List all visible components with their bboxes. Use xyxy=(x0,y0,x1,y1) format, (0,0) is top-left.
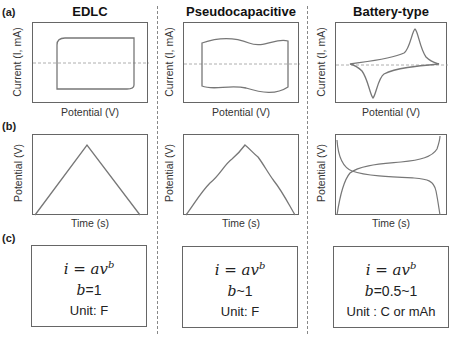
b-value-text: =1 xyxy=(86,282,102,298)
panel-label-c: (c) xyxy=(2,232,15,244)
b-variable: b xyxy=(77,282,86,298)
gcd-curve-battery-type xyxy=(336,135,448,216)
cv-curve-battery-type xyxy=(336,23,448,104)
cv-xlabel-pseudocapacitive: Potential (V) xyxy=(183,106,299,118)
power-law-equation-battery-type: i = avb xyxy=(334,260,448,279)
power-law-equation-pseudocapacitive: i = avb xyxy=(183,260,297,279)
unit-edlc: Unit: F xyxy=(32,303,146,318)
equation-exponent: b xyxy=(108,259,114,270)
equation-text: i = av xyxy=(366,261,410,279)
gcd-ylabel-edlc: Potential (V) xyxy=(12,138,24,208)
cv-xlabel-edlc: Potential (V) xyxy=(32,106,148,118)
cv-ylabel-edlc: Current (I, mA) xyxy=(11,22,23,102)
column-divider-1 xyxy=(157,6,158,334)
b-value-text: =0.5~1 xyxy=(374,283,418,299)
equation-box-edlc: i = avb b=1 Unit: F xyxy=(31,245,147,327)
cv-plot-pseudocapacitive xyxy=(183,22,299,103)
gcd-ylabel-battery-type: Potential (V) xyxy=(315,138,327,208)
equation-exponent: b xyxy=(259,260,265,271)
cv-plot-edlc xyxy=(32,22,148,103)
gcd-plot-battery-type xyxy=(335,134,447,215)
gcd-plot-pseudocapacitive xyxy=(183,134,299,215)
equation-exponent: b xyxy=(410,260,416,271)
cv-curve-pseudocapacitive xyxy=(184,23,300,104)
gcd-xlabel-edlc: Time (s) xyxy=(32,217,148,229)
b-value-pseudocapacitive: b~1 xyxy=(183,283,297,299)
gcd-ylabel-pseudocapacitive: Potential (V) xyxy=(163,138,175,208)
column-title-pseudocapacitive: Pseudocapacitive xyxy=(183,4,299,19)
cv-ylabel-pseudocapacitive: Current (I, mA) xyxy=(163,22,175,102)
column-title-battery-type: Battery-type xyxy=(335,4,447,19)
b-variable: b xyxy=(365,283,374,299)
power-law-equation-edlc: i = avb xyxy=(32,259,146,278)
b-variable: b xyxy=(228,283,237,299)
gcd-plot-edlc xyxy=(32,134,148,215)
equation-text: i = av xyxy=(64,260,108,278)
panel-label-a: (a) xyxy=(2,6,15,18)
gcd-curve-edlc xyxy=(33,135,149,216)
unit-battery-type: Unit : C or mAh xyxy=(334,304,448,319)
column-title-edlc: EDLC xyxy=(32,4,148,19)
b-value-text: ~1 xyxy=(237,283,253,299)
equation-box-pseudocapacitive: i = avb b~1 Unit: F xyxy=(182,246,298,328)
gcd-xlabel-battery-type: Time (s) xyxy=(335,217,447,229)
b-value-battery-type: b=0.5~1 xyxy=(334,283,448,299)
gcd-curve-pseudocapacitive xyxy=(184,135,300,216)
b-value-edlc: b=1 xyxy=(32,282,146,298)
cv-plot-battery-type xyxy=(335,22,447,103)
equation-box-battery-type: i = avb b=0.5~1 Unit : C or mAh xyxy=(333,246,449,328)
panel-label-b: (b) xyxy=(2,120,16,132)
gcd-xlabel-pseudocapacitive: Time (s) xyxy=(183,217,299,229)
cv-ylabel-battery-type: Current (I, mA) xyxy=(315,22,327,102)
cv-curve-edlc xyxy=(33,23,149,104)
equation-text: i = av xyxy=(215,261,259,279)
unit-pseudocapacitive: Unit: F xyxy=(183,304,297,319)
column-divider-2 xyxy=(307,6,308,334)
cv-xlabel-battery-type: Potential (V) xyxy=(335,106,447,118)
